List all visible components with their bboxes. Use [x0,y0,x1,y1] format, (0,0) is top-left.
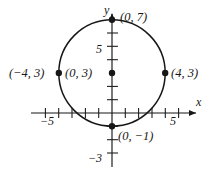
x-tick-label-neg5: −5 [40,115,54,127]
point-0-7 [109,17,115,23]
y-tick-label-neg3: −3 [88,152,102,164]
point-label-0-3: (0, 3) [65,67,92,80]
point-0-neg1 [109,123,115,129]
y-axis-label: y [104,4,109,16]
x-tick-label-pos5: 5 [170,115,176,127]
point-label-neg4-3: (−4, 3) [9,67,45,80]
point-label-0-7: (0, 7) [120,11,147,24]
axes-group [31,14,196,167]
point-label-0-neg1: (0, −1) [118,130,154,143]
point-neg4-3 [56,70,62,76]
point-label-4-3: (4, 3) [171,67,198,80]
point-4-3 [162,70,168,76]
graph-canvas [0,0,214,179]
x-axis-label: x [196,96,201,108]
y-tick-label-pos5: 5 [96,43,102,55]
x-axis-arrowhead [189,110,196,116]
point-0-3 [109,70,115,76]
math-figure-coordinate-plane: (0, 7) (−4, 3) (0, 3) (4, 3) (0, −1) −5 … [0,0,214,179]
